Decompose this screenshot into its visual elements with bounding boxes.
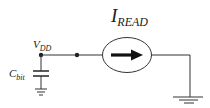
circuit-diagram: IREAD VDD Cbit	[0, 0, 210, 108]
ground-icon	[35, 89, 47, 95]
output-wire	[152, 55, 191, 97]
ground-icon	[173, 97, 203, 103]
junction-dot	[75, 53, 79, 57]
current-source-iread	[103, 38, 152, 73]
label-cbit: Cbit	[9, 67, 26, 82]
label-vdd: VDD	[33, 38, 52, 53]
capacitor-cbit	[33, 55, 49, 89]
label-iread: IREAD	[110, 5, 148, 29]
